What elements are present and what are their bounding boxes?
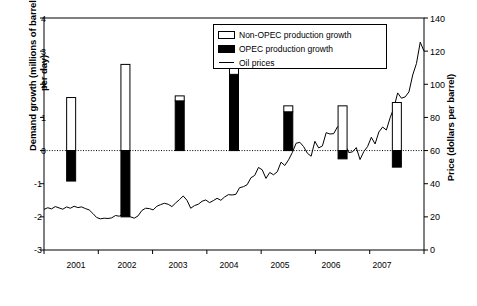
chart-legend: Non-OPEC production growth OPEC producti… bbox=[213, 24, 387, 69]
oil-demand-price-chart: Demand growth (millions of barrels per d… bbox=[0, 0, 477, 306]
legend-item-non-opec: Non-OPEC production growth bbox=[218, 28, 382, 41]
legend-label-oil-prices: Oil prices bbox=[239, 58, 274, 68]
legend-item-opec: OPEC production growth bbox=[218, 42, 382, 55]
legend-item-oil-prices: Oil prices bbox=[218, 56, 382, 69]
black-box-icon bbox=[218, 45, 235, 53]
white-box-icon bbox=[218, 31, 235, 39]
line-icon bbox=[218, 59, 235, 67]
legend-label-non-opec: Non-OPEC production growth bbox=[239, 30, 351, 40]
legend-label-opec: OPEC production growth bbox=[239, 44, 333, 54]
